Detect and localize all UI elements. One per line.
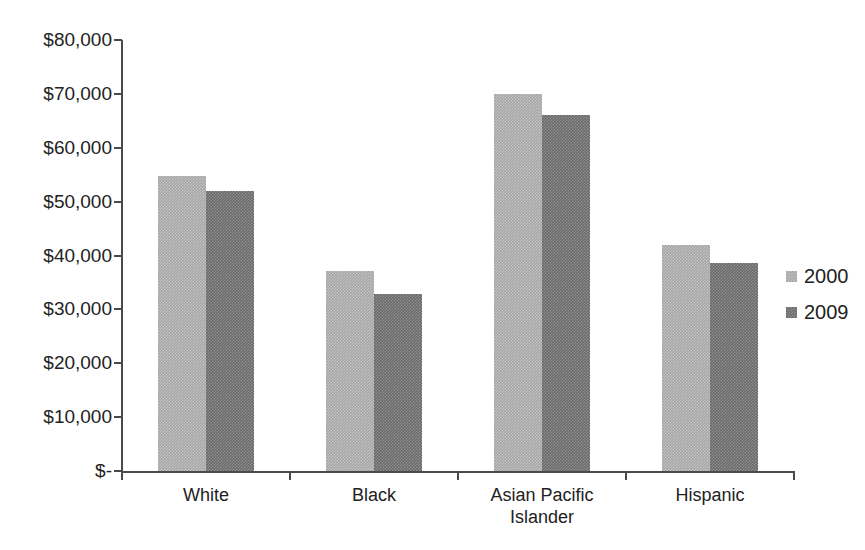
bar — [542, 115, 590, 471]
y-axis-label: $50,000 — [2, 192, 112, 211]
legend-item: 2009 — [786, 294, 849, 330]
x-axis-tick — [457, 471, 459, 480]
legend-label: 2009 — [804, 302, 849, 322]
y-axis-label: $70,000 — [2, 84, 112, 103]
y-axis-tick — [114, 201, 122, 203]
y-axis-tick — [114, 362, 122, 364]
legend-swatch-icon — [786, 271, 797, 282]
y-axis-tick — [114, 147, 122, 149]
x-axis-label: Black — [290, 484, 458, 506]
y-axis-tick — [114, 416, 122, 418]
y-axis-label: $30,000 — [2, 299, 112, 318]
x-axis-tick — [625, 471, 627, 480]
y-axis-tick — [114, 255, 122, 257]
y-axis-tick — [114, 39, 122, 41]
x-axis-label: Asian Pacific Islander — [458, 484, 626, 528]
y-axis-line — [121, 40, 123, 473]
bar — [662, 245, 710, 471]
bar — [374, 294, 422, 471]
y-axis-label: $10,000 — [2, 407, 112, 426]
legend-swatch-icon — [786, 307, 797, 318]
bar — [710, 263, 758, 471]
x-axis-label: White — [122, 484, 290, 506]
legend: 20002009 — [786, 258, 849, 330]
y-axis-label: $60,000 — [2, 138, 112, 157]
x-axis-label: Hispanic — [626, 484, 794, 506]
x-axis-tick — [289, 471, 291, 480]
y-axis-label: $80,000 — [2, 30, 112, 49]
bar — [494, 94, 542, 471]
y-axis-label: $20,000 — [2, 353, 112, 372]
legend-label: 2000 — [804, 266, 849, 286]
bar — [206, 191, 254, 471]
bar-chart: $80,000$70,000$60,000$50,000$40,000$30,0… — [0, 0, 865, 550]
y-axis-tick — [114, 93, 122, 95]
y-axis-label: $40,000 — [2, 246, 112, 265]
legend-item: 2000 — [786, 258, 849, 294]
y-axis-tick — [114, 308, 122, 310]
y-axis-label: $- — [2, 461, 112, 480]
x-axis-tick — [121, 471, 123, 480]
x-axis-tick-end — [793, 471, 795, 480]
bar — [326, 271, 374, 471]
bar — [158, 176, 206, 471]
